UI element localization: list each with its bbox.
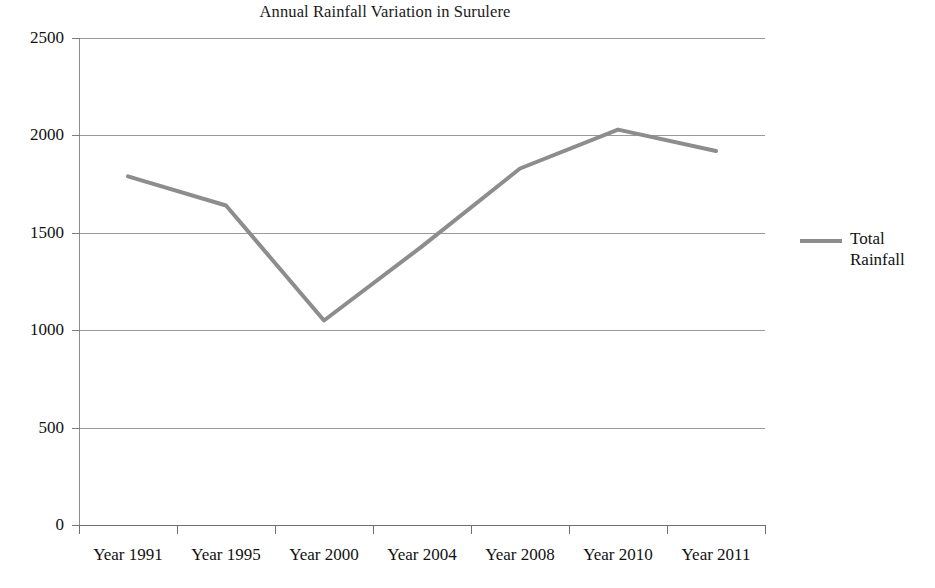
x-axis-tick-5 <box>569 525 570 534</box>
x-axis-tick-1 <box>177 525 178 534</box>
x-axis-tick-3 <box>373 525 374 534</box>
legend-swatch-total-rainfall <box>800 239 842 243</box>
legend-label-line-2: Rainfall <box>850 249 905 270</box>
y-axis-tick-2500 <box>72 38 80 39</box>
x-axis-tick-0 <box>79 525 80 534</box>
y-axis-tick-1000 <box>72 330 80 331</box>
chart-title: Annual Rainfall Variation in Surulere <box>0 2 770 22</box>
x-axis-tick-6 <box>667 525 668 534</box>
y-axis-label-2500: 2500 <box>0 29 64 46</box>
y-axis-label-2000: 2000 <box>0 126 64 143</box>
y-axis-tick-1500 <box>72 233 80 234</box>
gridline-2000 <box>79 135 765 136</box>
gridline-2500 <box>79 38 765 39</box>
chart-container: Annual Rainfall Variation in Surulere To… <box>0 0 935 588</box>
gridline-1000 <box>79 330 765 331</box>
x-axis-tick-7 <box>765 525 766 534</box>
gridline-500 <box>79 428 765 429</box>
x-axis-tick-4 <box>471 525 472 534</box>
gridline-1500 <box>79 233 765 234</box>
y-axis-tick-500 <box>72 428 80 429</box>
x-axis-tick-2 <box>275 525 276 534</box>
y-axis-label-1000: 1000 <box>0 321 64 338</box>
x-axis-label-year-2011: Year 2011 <box>656 546 776 565</box>
y-axis-label-0: 0 <box>0 516 64 533</box>
legend: Total Rainfall <box>800 228 905 271</box>
y-axis-label-500: 500 <box>0 419 64 436</box>
gridline-0 <box>79 525 765 526</box>
y-axis-tick-2000 <box>72 135 80 136</box>
y-axis-line <box>79 38 80 526</box>
plot-area <box>79 38 765 525</box>
y-axis-label-1500: 1500 <box>0 224 64 241</box>
legend-label-line-1: Total <box>850 228 905 249</box>
legend-label-total-rainfall: Total Rainfall <box>850 228 905 271</box>
